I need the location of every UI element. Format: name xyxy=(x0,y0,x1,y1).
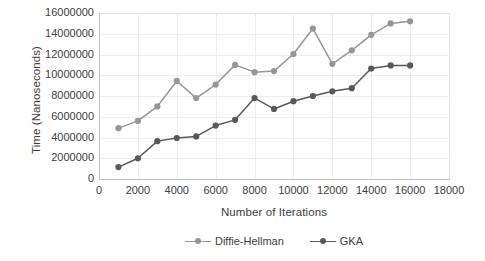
legend-dot xyxy=(320,238,326,244)
chart-legend: Diffie-HellmanGKA xyxy=(99,235,449,247)
data-point xyxy=(115,164,121,170)
data-point xyxy=(368,32,374,38)
legend-marker-icon xyxy=(310,237,336,246)
legend-label: Diffie-Hellman xyxy=(215,235,284,247)
legend-dot xyxy=(195,238,201,244)
series-diffie-hellman xyxy=(115,18,413,131)
data-point xyxy=(135,155,141,161)
data-point xyxy=(290,51,296,57)
series-gka xyxy=(115,62,413,170)
data-point xyxy=(349,47,355,53)
data-point xyxy=(310,93,316,99)
data-point xyxy=(329,61,335,67)
data-series-layer xyxy=(0,0,485,261)
data-point xyxy=(329,88,335,94)
data-point xyxy=(407,62,413,68)
legend-label: GKA xyxy=(340,235,363,247)
data-point xyxy=(174,78,180,84)
legend-marker-icon xyxy=(185,237,211,246)
data-point xyxy=(271,68,277,74)
data-point xyxy=(271,106,277,112)
data-point xyxy=(154,103,160,109)
data-point xyxy=(388,62,394,68)
series-line xyxy=(118,65,410,167)
data-point xyxy=(407,18,413,24)
data-point xyxy=(290,98,296,104)
data-point xyxy=(174,135,180,141)
data-point xyxy=(115,125,121,131)
data-point xyxy=(368,65,374,71)
data-point xyxy=(388,20,394,26)
data-point xyxy=(310,25,316,31)
data-point xyxy=(232,117,238,123)
data-point xyxy=(213,122,219,128)
data-point xyxy=(135,118,141,124)
data-point xyxy=(154,138,160,144)
data-point xyxy=(232,62,238,68)
x-axis-title: Number of Iterations xyxy=(99,206,449,218)
line-chart: Time (Nanoseconds) 020000004000000600000… xyxy=(0,0,485,261)
data-point xyxy=(349,85,355,91)
data-point xyxy=(251,95,257,101)
legend-item[interactable]: Diffie-Hellman xyxy=(185,235,284,247)
data-point xyxy=(193,95,199,101)
data-point xyxy=(251,69,257,75)
legend-item[interactable]: GKA xyxy=(310,235,363,247)
data-point xyxy=(213,81,219,87)
data-point xyxy=(193,133,199,139)
series-line xyxy=(118,21,410,128)
